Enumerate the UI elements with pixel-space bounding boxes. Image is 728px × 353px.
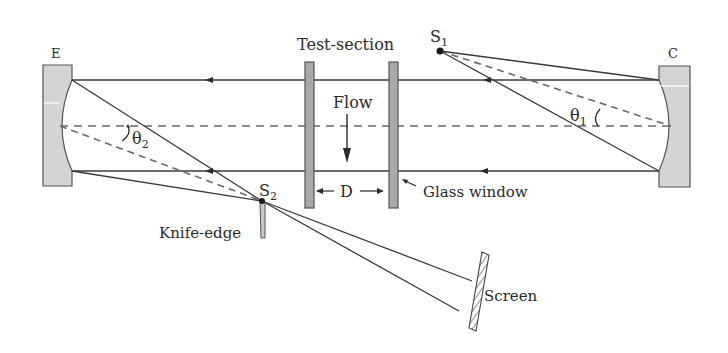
theta-2-arc [122, 126, 129, 141]
flow-arrow-icon [343, 114, 351, 163]
knife-edge [260, 202, 265, 238]
knife-edge-label: Knife-edge [159, 224, 241, 242]
arrow-icon [480, 168, 488, 174]
source-2-label: S2 [259, 181, 277, 203]
mirror-c-label: C [668, 46, 678, 61]
flow-label: Flow [333, 93, 373, 112]
pointer-arrow-icon [402, 179, 408, 184]
source-1-rays [440, 51, 671, 171]
arrow-icon [205, 77, 213, 83]
source-1-label: S1 [430, 27, 448, 49]
theta-2-label: θ2 [132, 129, 149, 151]
test-section-label: Test-section [297, 35, 394, 54]
glass-window-right [389, 62, 398, 208]
glass-window-left [305, 62, 314, 208]
distance-label: D [340, 182, 353, 201]
screen-label: Screen [484, 287, 538, 305]
theta-1-arc [595, 109, 600, 126]
mirror-e-label: E [51, 46, 61, 61]
schlieren-diagram: E C S1 S2 Knife-edge Test-sect [0, 0, 728, 353]
glass-window-label: Glass window [423, 183, 528, 201]
angle-arrow-icon [126, 124, 130, 128]
theta-1-label: θ1 [570, 106, 587, 128]
